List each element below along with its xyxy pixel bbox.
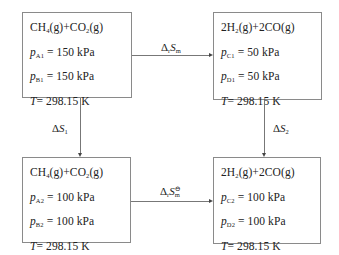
pressure-a1: pA1 = 150 kPa (30, 42, 131, 67)
state-box-reactants-initial: CH4(g)+CO2(g) pA1 = 150 kPa pB1 = 150 kP… (22, 12, 132, 98)
arrow-right-icon (209, 199, 213, 203)
reaction-equation: 2H2(g)+2CO(g) (221, 162, 320, 187)
right-transition-label: ΔS2 (273, 122, 289, 135)
left-transition-label: ΔS1 (52, 122, 68, 135)
temperature: T= 298.15 K (30, 236, 130, 255)
pressure-a2: pA2 = 100 kPa (30, 187, 130, 212)
left-transition-line (80, 98, 81, 153)
arrow-right-icon (209, 53, 213, 57)
pressure-b1: pB1 = 150 kPa (30, 66, 131, 91)
state-box-reactants-standard: CH4(g)+CO2(g) pA2 = 100 kPa pB2 = 100 kP… (22, 157, 131, 243)
right-transition-line (264, 100, 265, 153)
bottom-transition-line (131, 201, 209, 202)
top-transition-label: ΔrSm (161, 41, 181, 54)
reaction-equation: 2H2(g)+2CO(g) (221, 17, 321, 42)
pressure-d1: pD1 = 50 kPa (221, 66, 321, 91)
reaction-equation: CH4(g)+CO2(g) (30, 162, 130, 187)
arrow-down-icon (262, 153, 266, 157)
reaction-equation: CH4(g)+CO2(g) (30, 17, 131, 42)
state-box-products-standard: 2H2(g)+2CO(g) pC2 = 100 kPa pD2 = 100 kP… (213, 157, 321, 244)
pressure-c2: pC2 = 100 kPa (221, 187, 320, 212)
state-box-products-initial: 2H2(g)+2CO(g) pC1 = 50 kPa pD1 = 50 kPa … (213, 12, 322, 100)
temperature: T= 298.15 K (221, 91, 321, 112)
pressure-b2: pB2 = 100 kPa (30, 211, 130, 236)
top-transition-line (132, 55, 209, 56)
temperature: T= 298.15 K (221, 236, 320, 255)
pressure-d2: pD2 = 100 kPa (221, 211, 320, 236)
pressure-c1: pC1 = 50 kPa (221, 42, 321, 67)
bottom-transition-label: ΔrS⊖m (160, 185, 180, 198)
arrow-down-icon (78, 153, 82, 157)
